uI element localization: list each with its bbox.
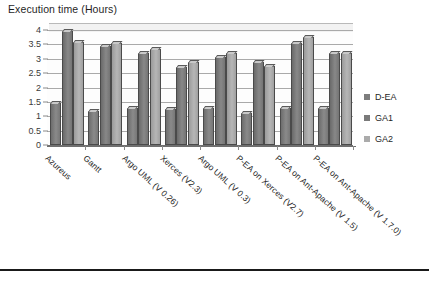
bar-group — [315, 30, 353, 145]
legend-item: GA1 — [364, 107, 426, 128]
y-tick-label: 1.5 — [17, 97, 41, 107]
x-tick-mark — [277, 146, 278, 150]
bar-group — [124, 30, 162, 145]
y-tick-mark — [43, 30, 48, 31]
legend-item: D-EA — [364, 86, 426, 107]
bar-d-ea — [88, 111, 99, 146]
bar-d-ea — [50, 103, 61, 145]
y-tick-mark — [43, 87, 48, 88]
x-tick-label: Azureus — [43, 153, 73, 182]
bar-ga2 — [341, 53, 352, 145]
x-tick-mark — [162, 146, 163, 150]
bar-ga2 — [303, 37, 314, 145]
bar-group — [47, 30, 85, 145]
legend-label: GA2 — [375, 134, 393, 144]
legend-swatch-icon — [364, 94, 370, 100]
y-tick-label: 0 — [17, 140, 41, 150]
caption-text — [0, 274, 429, 282]
chart-title: Execution time (Hours) — [8, 3, 117, 15]
bar-ga2 — [226, 53, 237, 145]
bar-ga1 — [176, 67, 187, 145]
y-tick-mark — [43, 73, 48, 74]
y-tick-label: 3.5 — [17, 39, 41, 49]
bar-ga2 — [111, 43, 122, 145]
y-tick-mark — [43, 58, 48, 59]
bar-ga1 — [329, 53, 340, 145]
legend-swatch-icon — [364, 136, 370, 142]
bar-ga2 — [73, 42, 84, 146]
legend-label: D-EA — [375, 92, 397, 102]
legend-label: GA1 — [375, 113, 393, 123]
y-tick-label: 1 — [17, 111, 41, 121]
bar-group — [277, 30, 315, 145]
bar-group — [85, 30, 123, 145]
legend-item: GA2 — [364, 128, 426, 149]
legend-swatch-icon — [364, 115, 370, 121]
bar-ga1 — [291, 43, 302, 145]
y-tick-mark — [43, 44, 48, 45]
y-axis-tick-labels: 00.511.522.533.54 — [0, 30, 41, 145]
bar-ga2 — [188, 62, 199, 145]
x-tick-mark — [353, 146, 354, 150]
bar-ga2 — [150, 49, 161, 145]
y-tick-label: 2 — [17, 83, 41, 93]
y-tick-label: 3 — [17, 54, 41, 64]
y-tick-label: 2.5 — [17, 68, 41, 78]
bar-group — [238, 30, 276, 145]
x-axis-line — [47, 146, 356, 147]
bar-d-ea — [241, 113, 252, 145]
y-tick-mark — [43, 101, 48, 102]
y-tick-mark — [43, 116, 48, 117]
y-tick-mark — [43, 145, 48, 146]
y-tick-label: 4 — [17, 25, 41, 35]
x-tick-mark — [124, 146, 125, 150]
x-tick-label: P-EA on Xerces (V2.7) — [235, 153, 307, 219]
plot-area — [47, 30, 353, 145]
bar-d-ea — [318, 108, 329, 145]
bar-d-ea — [280, 108, 291, 145]
bar-ga1 — [253, 62, 264, 145]
chart-legend: D-EAGA1GA2 — [364, 86, 426, 149]
x-tick-mark — [238, 146, 239, 150]
bar-ga1 — [215, 57, 226, 145]
bar-ga1 — [100, 46, 111, 145]
y-tick-label: 0.5 — [17, 126, 41, 136]
bar-ga1 — [62, 31, 73, 145]
x-tick-mark — [315, 146, 316, 150]
bar-ga2 — [264, 66, 275, 145]
figure-bar-chart: Execution time (Hours) 00.511.522.533.54… — [0, 0, 429, 282]
bar-d-ea — [203, 108, 214, 145]
x-tick-mark — [85, 146, 86, 150]
footer-rule — [0, 269, 429, 271]
bar-ga1 — [138, 53, 149, 145]
bar-group — [162, 30, 200, 145]
y-tick-mark — [43, 130, 48, 131]
bar-group — [200, 30, 238, 145]
x-tick-mark — [200, 146, 201, 150]
bar-d-ea — [127, 108, 138, 145]
bar-d-ea — [165, 109, 176, 145]
x-tick-label: Gantt — [82, 153, 105, 175]
